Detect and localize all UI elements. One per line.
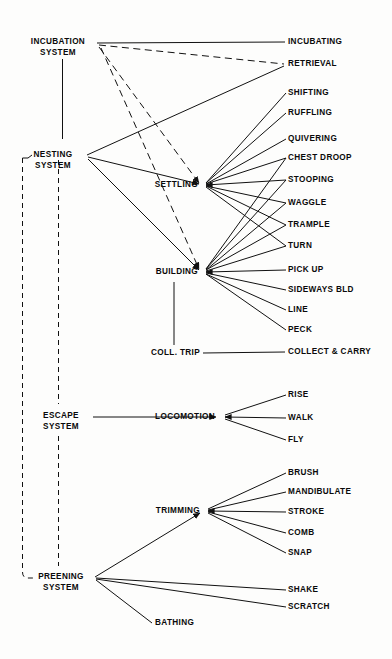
leaf-shifting: SHIFTING: [288, 88, 329, 99]
edge-trimming-brush: [208, 473, 286, 509]
leaf-fly: FLY: [288, 435, 304, 446]
leaf-peck: PECK: [288, 325, 312, 336]
leaf-stooping: STOOPING: [288, 175, 334, 186]
node-incubation-system: INCUBATION SYSTEM: [19, 37, 97, 58]
leaf-rise: RISE: [288, 390, 309, 401]
leaf-collect-and-carry: COLLECT & CARRY: [288, 347, 371, 358]
edge-locomotion-rise: [225, 395, 286, 415]
node-coll-trip: COLL. TRIP: [130, 348, 200, 359]
leaf-pick-up: PICK UP: [288, 265, 324, 276]
edge-preening-scratch: [96, 579, 286, 607]
leaf-stroke: STROKE: [288, 507, 324, 518]
edge-nesting-building: [88, 159, 199, 270]
edge-incubation-incubating: [97, 42, 285, 43]
node-preening-system-line1: PREENING: [31, 572, 91, 583]
edge-building-sideways-bld: [206, 273, 286, 290]
edge-locomotion-walk: [225, 417, 286, 418]
edge-settling-waggle: [206, 186, 286, 203]
leaf-sideways-bld: SIDEWAYS BLD: [288, 285, 354, 296]
diagram-connector-lines: [0, 0, 392, 659]
leaf-line: LINE: [288, 305, 308, 316]
leaf-mandibulate: MANDIBULATE: [288, 487, 351, 498]
edge-preening-trimming: [95, 513, 200, 577]
edge-building-stooping: [206, 180, 286, 269]
node-incubation-system-line2: SYSTEM: [19, 48, 97, 59]
node-incubation-system-line1: INCUBATION: [19, 37, 97, 48]
behavior-hierarchy-diagram: INCUBATION SYSTEM NESTING SYSTEM ESCAPE …: [0, 0, 392, 659]
node-preening-system: PREENING SYSTEM: [31, 572, 91, 593]
edge-trimming-comb: [208, 512, 286, 533]
node-settling: SETTLING: [130, 180, 198, 191]
edge-building-turn: [206, 246, 286, 271]
node-preening-system-line2: SYSTEM: [31, 583, 91, 594]
edge-settling-ruffling: [206, 113, 286, 183]
edge-incubation-settling: [99, 47, 199, 183]
edge-settling-shifting: [206, 93, 286, 183]
node-nesting-system-line2: SYSTEM: [22, 161, 84, 172]
leaf-walk: WALK: [288, 413, 314, 424]
node-nesting-system-line1: NESTING: [22, 150, 84, 161]
edge-incubation-retrieval: [99, 45, 284, 64]
edge-nesting-retrieval: [87, 66, 284, 155]
edge-building-line: [206, 274, 286, 310]
edge-building-pick-up: [206, 270, 286, 272]
edge-building-trample: [206, 225, 286, 270]
node-escape-system-line1: ESCAPE: [31, 411, 91, 422]
leaf-comb: COMB: [288, 528, 314, 539]
leaf-brush: BRUSH: [288, 468, 319, 479]
leaf-retrieval: RETRIEVAL: [288, 59, 337, 70]
edge-incubation-building: [101, 48, 199, 269]
edge-trimming-mandibulate: [208, 492, 286, 510]
node-bathing: BATHING: [155, 618, 225, 629]
edge-preening-shake: [96, 578, 286, 590]
leaf-scratch: SCRATCH: [288, 602, 330, 613]
leaf-snap: SNAP: [288, 548, 312, 559]
node-escape-system: ESCAPE SYSTEM: [31, 411, 91, 432]
node-building: BUILDING: [130, 267, 198, 278]
node-escape-system-line2: SYSTEM: [31, 422, 91, 433]
leaf-shake: SHAKE: [288, 585, 318, 596]
node-locomotion: LOCOMOTION: [135, 412, 215, 423]
edge-locomotion-fly: [225, 419, 286, 440]
leaf-turn: TURN: [288, 241, 312, 252]
leaf-incubating: INCUBATING: [288, 37, 342, 48]
edge-settling-stooping: [206, 180, 286, 185]
edge-trimming-stroke: [208, 511, 286, 512]
edge-settling-trample: [206, 186, 286, 225]
edge-trimming-snap: [208, 513, 286, 553]
leaf-ruffling: RUFFLING: [288, 108, 332, 119]
leaf-chest-droop: CHEST DROOP: [288, 153, 352, 164]
leaf-trample: TRAMPLE: [288, 220, 330, 231]
edge-building-peck: [206, 274, 286, 330]
node-nesting-system: NESTING SYSTEM: [22, 150, 84, 171]
edge-colltrip-collect-carry: [203, 352, 285, 353]
leaf-quivering: QUIVERING: [288, 134, 337, 145]
leaf-waggle: WAGGLE: [288, 198, 327, 209]
node-trimming: TRIMMING: [130, 506, 200, 517]
